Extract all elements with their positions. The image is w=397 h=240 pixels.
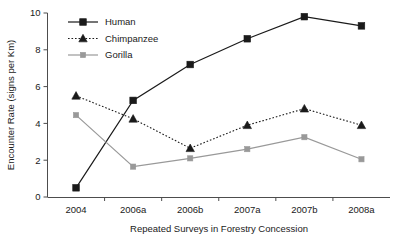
x-tick-label: 2006a: [120, 204, 147, 215]
data-point-marker-human-2006a: [130, 97, 137, 104]
x-tick-label: 2007a: [234, 204, 261, 215]
data-point-marker-human-2006b: [187, 61, 194, 68]
chart-canvas: 0246810 20042006a2006b2007a2007b2008a Hu…: [0, 0, 397, 240]
data-point-marker-chimpanzee-2007b: [300, 104, 308, 112]
x-tick-label: 2006b: [177, 204, 203, 215]
x-tick-label: 2007b: [291, 204, 317, 215]
y-tick-label: 0: [35, 191, 40, 202]
data-point-marker-legend-human: [80, 19, 87, 26]
data-point-marker-gorilla-2008a: [359, 157, 364, 162]
y-tick-label: 2: [35, 155, 40, 166]
data-point-marker-gorilla-2006a: [131, 164, 136, 169]
data-point-marker-gorilla-2006b: [188, 156, 193, 161]
data-point-marker-human-2008a: [358, 23, 365, 30]
legend-item-gorilla: Gorilla: [68, 49, 133, 60]
encounter-rate-line-chart: 0246810 20042006a2006b2007a2007b2008a Hu…: [0, 0, 397, 240]
x-axis-title: Repeated Surveys in Forestry Concession: [130, 223, 308, 234]
y-axis-ticks: 0246810: [30, 7, 48, 202]
y-axis-title: Encounter Rate (signs per Km): [5, 40, 16, 170]
data-point-marker-gorilla-2007b: [302, 135, 307, 140]
data-point-marker-gorilla-2004: [73, 113, 78, 118]
data-point-marker-legend-gorilla: [80, 52, 85, 57]
data-point-marker-human-2004: [73, 185, 80, 192]
legend-item-human: Human: [68, 16, 136, 27]
y-tick-label: 6: [35, 81, 40, 92]
legend-label-chimpanzee: Chimpanzee: [105, 33, 158, 44]
data-point-marker-chimpanzee-2006b: [186, 144, 194, 152]
y-tick-label: 4: [35, 118, 40, 129]
legend-item-chimpanzee: Chimpanzee: [68, 33, 158, 44]
data-point-marker-chimpanzee-2008a: [357, 121, 365, 129]
data-point-marker-chimpanzee-2004: [72, 92, 80, 100]
y-tick-label: 8: [35, 44, 40, 55]
legend-label-gorilla: Gorilla: [105, 49, 133, 60]
data-point-marker-human-2007b: [301, 13, 308, 20]
data-point-marker-chimpanzee-2006a: [129, 115, 137, 123]
chart-legend: HumanChimpanzeeGorilla: [68, 16, 158, 60]
x-tick-label: 2008a: [348, 204, 375, 215]
x-tick-label: 2004: [65, 204, 86, 215]
data-point-marker-human-2007a: [244, 35, 251, 42]
series-chimpanzee: [72, 92, 366, 152]
series-gorilla: [73, 113, 364, 170]
y-tick-label: 10: [30, 7, 41, 18]
x-axis-ticks: 20042006a2006b2007a2007b2008a: [65, 197, 375, 215]
data-point-marker-gorilla-2007a: [245, 147, 250, 152]
legend-label-human: Human: [105, 16, 136, 27]
